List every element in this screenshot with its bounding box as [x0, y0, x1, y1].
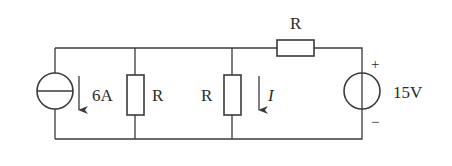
- resistor-1-body: [127, 75, 144, 115]
- circuit-diagram: 6A R R I R + − 15V: [0, 0, 452, 166]
- voltage-plus-label: +: [371, 56, 379, 72]
- bottom-wire: [55, 109, 362, 139]
- resistor-2-body: [224, 75, 241, 115]
- current-label: I: [267, 86, 275, 105]
- top-wire-right: [314, 48, 362, 73]
- resistor-top-label: R: [290, 14, 302, 33]
- resistor-1-label: R: [152, 86, 164, 105]
- voltage-source: + − 15V: [344, 56, 423, 130]
- resistor-2-label: R: [201, 86, 213, 105]
- voltage-minus-label: −: [371, 114, 379, 130]
- voltage-source-label: 15V: [393, 83, 423, 102]
- current-source-label: 6A: [92, 86, 114, 105]
- resistor-top: R: [277, 14, 314, 56]
- current-source: 6A: [37, 73, 114, 110]
- resistor-2: R: [201, 75, 241, 115]
- current-indicator: I: [259, 76, 275, 110]
- resistor-top-body: [277, 40, 314, 56]
- resistor-1: R: [127, 75, 164, 115]
